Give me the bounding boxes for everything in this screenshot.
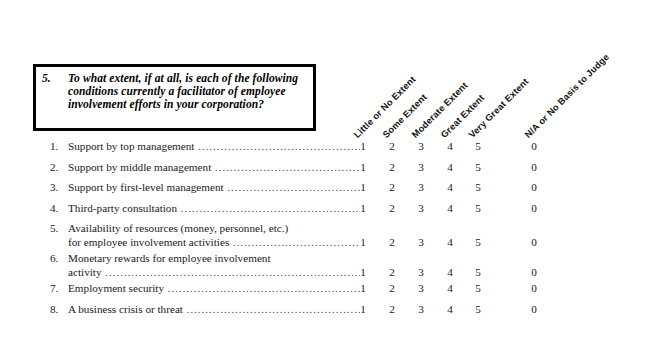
scale-header-2: Some Extent	[381, 92, 429, 140]
scale-header-6: N/A or No Basis to Judge	[523, 52, 611, 140]
item-label: Monetary rewards for employee involvemen…	[68, 252, 360, 279]
question-prompt-inner: 5. To what extent, if at all, is each of…	[36, 67, 313, 116]
survey-item-row: 6.Monetary rewards for employee involvem…	[0, 250, 646, 280]
scale-header-5: Very Great Extent	[467, 76, 531, 140]
scale-option-2[interactable]: 2	[386, 282, 398, 296]
scale-option-4[interactable]: 4	[444, 181, 456, 195]
scale-option-5[interactable]: 5	[472, 266, 484, 280]
scale-option-5[interactable]: 5	[472, 282, 484, 296]
item-number: 5.	[50, 222, 58, 236]
scale-option-5[interactable]: 5	[472, 140, 484, 154]
scale-option-2[interactable]: 2	[386, 140, 398, 154]
dot-leader: ........................................…	[183, 304, 360, 315]
scale-option-5[interactable]: 5	[472, 303, 484, 317]
survey-question-page: 5. To what extent, if at all, is each of…	[0, 0, 646, 346]
survey-item-row: 4.Third-party consultation .............…	[0, 200, 646, 221]
item-label-text: Monetary rewards for employee involvemen…	[68, 252, 360, 266]
item-label-text: Employment security	[68, 282, 164, 294]
item-number: 2.	[50, 161, 58, 175]
scale-option-0[interactable]: 0	[528, 140, 540, 154]
scale-option-5[interactable]: 5	[472, 161, 484, 175]
scale-option-2[interactable]: 2	[386, 266, 398, 280]
item-label: Support by middle management ...........…	[68, 161, 360, 175]
dot-leader: ........................................…	[164, 283, 360, 294]
scale-option-0[interactable]: 0	[528, 202, 540, 216]
item-number: 8.	[50, 303, 58, 317]
survey-items-list: 1.Support by top management ............…	[0, 138, 646, 321]
scale-option-5[interactable]: 5	[472, 181, 484, 195]
scale-option-2[interactable]: 2	[386, 236, 398, 250]
scale-option-0[interactable]: 0	[528, 282, 540, 296]
scale-option-5[interactable]: 5	[472, 202, 484, 216]
scale-option-2[interactable]: 2	[386, 303, 398, 317]
scale-header-1: Little or No Extent	[352, 74, 418, 140]
scale-option-1[interactable]: 1	[357, 161, 369, 175]
dot-leader: ........................................…	[194, 141, 360, 152]
survey-item-row: 8.A business crisis or threat ..........…	[0, 301, 646, 322]
item-label-text: Availability of resources (money, person…	[68, 222, 360, 236]
scale-option-1[interactable]: 1	[357, 181, 369, 195]
scale-option-1[interactable]: 1	[357, 140, 369, 154]
scale-option-1[interactable]: 1	[357, 303, 369, 317]
scale-option-3[interactable]: 3	[415, 303, 427, 317]
survey-item-row: 2.Support by middle management .........…	[0, 159, 646, 180]
dot-leader: ........................................…	[224, 182, 360, 193]
scale-option-4[interactable]: 4	[444, 282, 456, 296]
dot-leader: ........................................…	[102, 267, 360, 278]
item-label-text: for employee involvement activities	[68, 236, 229, 248]
scale-option-3[interactable]: 3	[415, 181, 427, 195]
item-label-text: Third-party consultation	[68, 202, 177, 214]
survey-item-row: 3.Support by first-level management ....…	[0, 179, 646, 200]
survey-item-row: 5.Availability of resources (money, pers…	[0, 220, 646, 250]
item-label: Support by first-level management ......…	[68, 181, 360, 195]
scale-option-1[interactable]: 1	[357, 266, 369, 280]
scale-option-0[interactable]: 0	[528, 303, 540, 317]
item-label: Third-party consultation ...............…	[68, 202, 360, 216]
scale-option-4[interactable]: 4	[444, 202, 456, 216]
item-label-text: Support by top management	[68, 140, 194, 152]
question-prompt-box: 5. To what extent, if at all, is each of…	[33, 64, 316, 131]
scale-option-4[interactable]: 4	[444, 266, 456, 280]
item-label-text: Support by middle management	[68, 161, 211, 173]
scale-option-0[interactable]: 0	[528, 161, 540, 175]
scale-header-4: Great Extent	[439, 93, 486, 140]
scale-option-3[interactable]: 3	[415, 236, 427, 250]
scale-option-5[interactable]: 5	[472, 236, 484, 250]
scale-option-2[interactable]: 2	[386, 202, 398, 216]
scale-option-2[interactable]: 2	[386, 161, 398, 175]
scale-option-3[interactable]: 3	[415, 140, 427, 154]
item-label-text: A business crisis or threat	[68, 303, 183, 315]
dot-leader: ........................................…	[229, 237, 360, 248]
scale-option-0[interactable]: 0	[528, 181, 540, 195]
scale-option-0[interactable]: 0	[528, 236, 540, 250]
scale-option-4[interactable]: 4	[444, 303, 456, 317]
scale-option-2[interactable]: 2	[386, 181, 398, 195]
scale-option-4[interactable]: 4	[444, 161, 456, 175]
item-label-text: activity	[68, 266, 102, 278]
scale-option-4[interactable]: 4	[444, 236, 456, 250]
item-label: A business crisis or threat ............…	[68, 303, 360, 317]
item-number: 4.	[50, 202, 58, 216]
survey-item-row: 1.Support by top management ............…	[0, 138, 646, 159]
scale-option-4[interactable]: 4	[444, 140, 456, 154]
item-label: Support by top management ..............…	[68, 140, 360, 154]
item-number: 7.	[50, 282, 58, 296]
scale-option-3[interactable]: 3	[415, 202, 427, 216]
scale-option-1[interactable]: 1	[357, 236, 369, 250]
scale-option-3[interactable]: 3	[415, 282, 427, 296]
question-text: To what extent, if at all, is each of th…	[68, 72, 309, 112]
survey-item-row: 7.Employment security ..................…	[0, 280, 646, 301]
scale-option-0[interactable]: 0	[528, 266, 540, 280]
scale-option-1[interactable]: 1	[357, 202, 369, 216]
dot-leader: ........................................…	[211, 162, 360, 173]
scale-option-3[interactable]: 3	[415, 266, 427, 280]
item-number: 3.	[50, 181, 58, 195]
item-label-text: Support by first-level management	[68, 181, 224, 193]
question-number: 5.	[42, 72, 68, 112]
scale-option-1[interactable]: 1	[357, 282, 369, 296]
scale-option-3[interactable]: 3	[415, 161, 427, 175]
item-label: Employment security ....................…	[68, 282, 360, 296]
scale-header-3: Moderate Extent	[410, 80, 470, 140]
item-number: 1.	[50, 140, 58, 154]
item-number: 6.	[50, 252, 58, 266]
